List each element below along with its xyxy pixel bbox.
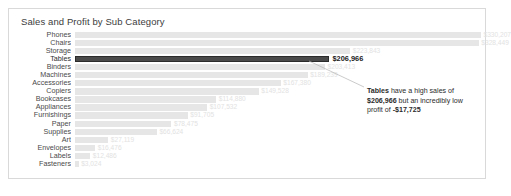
bar-row[interactable]: Fasteners$3,024 bbox=[9, 160, 485, 168]
bar-value-label: $328,449 bbox=[479, 39, 509, 47]
category-label: Supplies bbox=[9, 128, 71, 136]
category-label: Binders bbox=[9, 63, 71, 71]
bar-row[interactable]: Art$27,119 bbox=[9, 136, 485, 144]
bar-track: $27,119 bbox=[75, 136, 483, 144]
bar[interactable] bbox=[75, 40, 479, 46]
bar-row[interactable]: Tables$206,966 bbox=[9, 55, 485, 63]
bar[interactable] bbox=[75, 56, 329, 62]
bar-track: $12,486 bbox=[75, 152, 483, 160]
category-label: Furnishings bbox=[9, 111, 71, 119]
bar[interactable] bbox=[75, 48, 350, 54]
bar[interactable] bbox=[75, 64, 325, 70]
bar[interactable] bbox=[75, 121, 171, 127]
bar-value-label: $16,476 bbox=[95, 144, 121, 152]
bar-value-label: $27,119 bbox=[108, 136, 134, 144]
bar[interactable] bbox=[75, 32, 481, 38]
category-label: Fasteners bbox=[9, 160, 71, 168]
category-label: Chairs bbox=[9, 39, 71, 47]
annotation-lead: Tables bbox=[367, 87, 389, 95]
category-label: Envelopes bbox=[9, 144, 71, 152]
annotation-sales-value: $206,966 bbox=[367, 97, 397, 105]
bar-track: $3,024 bbox=[75, 160, 483, 168]
bar-row[interactable]: Labels$12,486 bbox=[9, 152, 485, 160]
bar-value-label: $330,207 bbox=[481, 31, 511, 39]
annotation-profit-value: -$17,725 bbox=[393, 106, 421, 114]
category-label: Machines bbox=[9, 71, 71, 79]
bar-track: $78,475 bbox=[75, 120, 483, 128]
bar-value-label: $66,624 bbox=[157, 128, 183, 136]
annotation-text-1: have a high sales of bbox=[389, 87, 454, 95]
bar-value-label: $189,239 bbox=[308, 71, 338, 79]
category-label: Tables bbox=[9, 55, 71, 63]
bar-track: $328,449 bbox=[75, 39, 483, 47]
bar-value-label: $114,880 bbox=[216, 95, 246, 103]
category-label: Art bbox=[9, 136, 71, 144]
category-label: Paper bbox=[9, 120, 71, 128]
annotation-callout: Tables have a high sales of $206,966 but… bbox=[367, 87, 479, 116]
bar[interactable] bbox=[75, 129, 157, 135]
bar-value-label: $206,966 bbox=[329, 55, 363, 63]
bar-track: $330,207 bbox=[75, 31, 483, 39]
category-label: Labels bbox=[9, 152, 71, 160]
bar-track: $16,476 bbox=[75, 144, 483, 152]
category-label: Storage bbox=[9, 47, 71, 55]
bar-track: $206,966 bbox=[75, 55, 483, 63]
bar[interactable] bbox=[75, 104, 207, 110]
bar[interactable] bbox=[75, 145, 95, 151]
bar-row[interactable]: Machines$189,239 bbox=[9, 71, 485, 79]
category-label: Bookcases bbox=[9, 95, 71, 103]
bar-row[interactable]: Phones$330,207 bbox=[9, 31, 485, 39]
bar-row[interactable]: Chairs$328,449 bbox=[9, 39, 485, 47]
category-label: Appliances bbox=[9, 103, 71, 111]
category-label: Copiers bbox=[9, 87, 71, 95]
bar-row[interactable]: Storage$223,843 bbox=[9, 47, 485, 55]
bar[interactable] bbox=[75, 96, 216, 102]
bar-track: $66,624 bbox=[75, 128, 483, 136]
bar-row[interactable]: Binders$203,413 bbox=[9, 63, 485, 71]
category-label: Phones bbox=[9, 31, 71, 39]
category-label: Accessories bbox=[9, 79, 71, 87]
bar[interactable] bbox=[75, 153, 90, 159]
bar-track: $223,843 bbox=[75, 47, 483, 55]
bar-value-label: $107,532 bbox=[207, 103, 237, 111]
bar-value-label: $78,475 bbox=[171, 120, 197, 128]
bar[interactable] bbox=[75, 137, 108, 143]
bar[interactable] bbox=[75, 88, 259, 94]
bar-value-label: $3,024 bbox=[79, 160, 102, 168]
bar-value-label: $91,705 bbox=[188, 111, 214, 119]
bar-value-label: $167,380 bbox=[281, 79, 311, 87]
bar-track: $203,413 bbox=[75, 63, 483, 71]
bar[interactable] bbox=[75, 112, 188, 118]
chart-title: Sales and Profit by Sub Category bbox=[21, 16, 165, 27]
chart-card: Sales and Profit by Sub Category Phones$… bbox=[8, 8, 486, 179]
bar[interactable] bbox=[75, 72, 308, 78]
bar-row[interactable]: Paper$78,475 bbox=[9, 120, 485, 128]
bar-value-label: $12,486 bbox=[90, 152, 116, 160]
bar-value-label: $203,413 bbox=[325, 63, 355, 71]
bar[interactable] bbox=[75, 80, 281, 86]
bar-track: $189,239 bbox=[75, 71, 483, 79]
bar-row[interactable]: Supplies$66,624 bbox=[9, 128, 485, 136]
bar-row[interactable]: Envelopes$16,476 bbox=[9, 144, 485, 152]
bar-value-label: $149,528 bbox=[259, 87, 289, 95]
